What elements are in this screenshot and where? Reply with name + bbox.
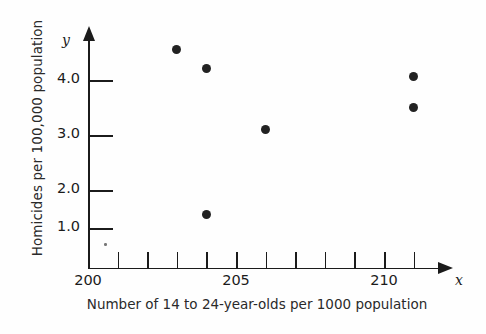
y-tick-1 bbox=[88, 228, 113, 230]
y-axis-symbol: y bbox=[62, 32, 70, 48]
x-tick-206 bbox=[266, 252, 268, 268]
data-point bbox=[409, 103, 418, 112]
x-tick-200 bbox=[88, 252, 90, 268]
x-tick-203 bbox=[177, 252, 179, 268]
x-tick-label-205: 205 bbox=[206, 272, 266, 288]
plot-area: y x 4.0 3.0 2.0 1.0 200 205 210 bbox=[0, 0, 486, 300]
x-tick-208 bbox=[325, 252, 327, 268]
scatter-plot-figure: Homicides per 100,000 population y x 4.0… bbox=[0, 0, 486, 334]
x-tick-204 bbox=[206, 252, 208, 268]
x-tick-210 bbox=[384, 252, 386, 268]
data-point bbox=[202, 64, 211, 73]
x-tick-201 bbox=[118, 252, 120, 268]
y-tick-2 bbox=[88, 190, 113, 192]
figure-caption-cropped bbox=[46, 322, 266, 332]
y-tick-label-3: 3.0 bbox=[36, 125, 80, 141]
x-axis-title: Number of 14 to 24-year-olds per 1000 po… bbox=[0, 296, 486, 312]
x-axis-symbol: x bbox=[455, 272, 463, 288]
y-tick-label-2: 2.0 bbox=[36, 180, 80, 196]
y-axis-line bbox=[88, 38, 90, 269]
x-tick-209 bbox=[354, 252, 356, 268]
y-tick-4 bbox=[88, 80, 113, 82]
y-tick-label-4: 4.0 bbox=[36, 70, 80, 86]
x-tick-211 bbox=[414, 252, 416, 268]
data-point bbox=[409, 72, 418, 81]
x-tick-label-210: 210 bbox=[354, 272, 414, 288]
y-axis-arrow-icon bbox=[83, 26, 95, 41]
scan-speck bbox=[104, 243, 107, 246]
y-tick-label-1: 1.0 bbox=[36, 218, 80, 234]
data-point bbox=[261, 125, 270, 134]
data-point bbox=[202, 210, 211, 219]
x-axis-title-text: Number of 14 to 24-year-olds per 1000 po… bbox=[59, 296, 427, 312]
x-tick-202 bbox=[147, 252, 149, 268]
y-tick-3 bbox=[88, 135, 113, 137]
data-point bbox=[172, 45, 181, 54]
x-tick-207 bbox=[295, 252, 297, 268]
x-axis-arrow-icon bbox=[438, 262, 453, 274]
x-tick-label-200: 200 bbox=[58, 272, 118, 288]
x-tick-205 bbox=[236, 252, 238, 268]
